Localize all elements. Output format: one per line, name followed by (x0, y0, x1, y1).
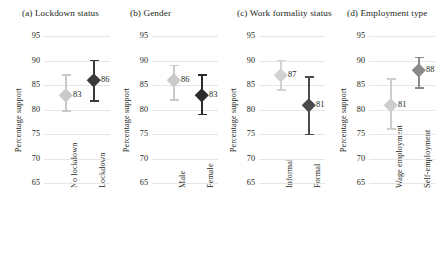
y-axis-label: Percentage support (14, 62, 23, 178)
y-tick-label: 70 (32, 154, 40, 162)
plot-area: 959085807570658386 (44, 36, 110, 183)
error-bar-cap-lower (198, 114, 207, 116)
gridline (259, 110, 325, 111)
error-bar-cap-upper (62, 74, 71, 76)
error-bar-cap-lower (277, 89, 286, 91)
gridline (369, 85, 435, 86)
y-tick-label: 70 (140, 154, 148, 162)
y-tick-label: 70 (247, 154, 255, 162)
y-tick-label: 85 (357, 81, 365, 89)
y-tick-label: 85 (247, 81, 255, 89)
panel-title: (c) Work formality status (237, 8, 332, 18)
y-tick-label: 65 (32, 179, 40, 187)
error-bar-cap-lower (305, 134, 314, 136)
data-value-label: 81 (316, 100, 324, 108)
y-tick-label: 65 (247, 179, 255, 187)
data-value-label: 83 (73, 91, 81, 99)
gridline (369, 183, 435, 184)
data-value-label: 87 (288, 71, 296, 79)
error-bar-cap-upper (305, 76, 314, 78)
gridline (44, 110, 110, 111)
panel-title: (d) Employment type (347, 8, 428, 18)
data-value-label: 88 (426, 66, 434, 74)
error-bar-cap-upper (198, 74, 207, 76)
gridline (369, 61, 435, 62)
gridline (259, 159, 325, 160)
y-tick-label: 65 (357, 179, 365, 187)
panel-title: (b) Gender (130, 8, 171, 18)
plot-area: 959085807570658781 (259, 36, 325, 183)
error-bar-cap-lower (387, 128, 396, 130)
y-tick-label: 90 (32, 56, 40, 64)
gridline (44, 61, 110, 62)
y-tick-label: 75 (357, 130, 365, 138)
y-tick-label: 80 (32, 105, 40, 113)
y-tick-label: 85 (32, 81, 40, 89)
figure-panel-grid: (a) Lockdown statusPercentage supportNo … (0, 0, 442, 277)
gridline (259, 36, 325, 37)
y-tick-label: 90 (140, 56, 148, 64)
gridline (152, 134, 218, 135)
y-tick-label: 95 (357, 32, 365, 40)
gridline (152, 85, 218, 86)
diamond-marker[interactable] (59, 88, 72, 101)
gridline (259, 85, 325, 86)
gridline (259, 134, 325, 135)
error-bar-cap-upper (170, 65, 179, 67)
gridline (369, 159, 435, 160)
data-value-label: 86 (181, 76, 189, 84)
error-bar-cap-lower (415, 87, 424, 89)
gridline (44, 159, 110, 160)
error-bar-cap-upper (415, 57, 424, 59)
gridline (259, 183, 325, 184)
plot-area: 959085807570658683 (152, 36, 218, 183)
error-bar-cap-upper (90, 60, 99, 62)
gridline (369, 134, 435, 135)
gridline (152, 110, 218, 111)
error-bar-cap-lower (170, 99, 179, 101)
gridline (44, 36, 110, 37)
gridline (259, 61, 325, 62)
plot-area: 959085807570658188 (369, 36, 435, 183)
y-tick-label: 75 (247, 130, 255, 138)
y-tick-label: 80 (140, 105, 148, 113)
y-tick-label: 80 (357, 105, 365, 113)
data-value-label: 83 (209, 91, 217, 99)
diamond-marker[interactable] (412, 64, 425, 77)
y-axis-label: Percentage support (339, 62, 348, 178)
data-value-label: 81 (398, 100, 406, 108)
panel-title: (a) Lockdown status (22, 8, 99, 18)
gridline (152, 36, 218, 37)
error-bar-cap-upper (277, 60, 286, 62)
y-tick-label: 95 (140, 32, 148, 40)
gridline (152, 61, 218, 62)
y-tick-label: 95 (247, 32, 255, 40)
gridline (44, 85, 110, 86)
y-axis-label: Percentage support (122, 62, 131, 178)
data-value-label: 86 (101, 76, 109, 84)
y-tick-label: 65 (140, 179, 148, 187)
gridline (44, 183, 110, 184)
y-tick-label: 90 (357, 56, 365, 64)
diamond-marker[interactable] (195, 88, 208, 101)
gridline (152, 159, 218, 160)
error-bar-cap-lower (62, 110, 71, 112)
error-bar-cap-upper (387, 78, 396, 80)
gridline (369, 110, 435, 111)
gridline (369, 36, 435, 37)
y-tick-label: 80 (247, 105, 255, 113)
gridline (152, 183, 218, 184)
y-tick-label: 75 (140, 130, 148, 138)
y-axis-label: Percentage support (229, 62, 238, 178)
diamond-marker[interactable] (274, 68, 287, 81)
y-tick-label: 75 (32, 130, 40, 138)
gridline (44, 134, 110, 135)
y-tick-label: 85 (140, 81, 148, 89)
y-tick-label: 95 (32, 32, 40, 40)
y-tick-label: 70 (357, 154, 365, 162)
y-tick-label: 90 (247, 56, 255, 64)
error-bar-cap-lower (90, 100, 99, 102)
